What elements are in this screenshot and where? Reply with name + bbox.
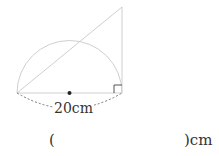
center-point [68, 91, 72, 95]
answer-close-paren-unit: )cm [184, 133, 212, 148]
right-angle-marker [114, 85, 122, 93]
answer-open-paren: ( [49, 133, 55, 148]
semicircle-arc [17, 41, 122, 94]
dimension-label: 20cm [53, 101, 94, 115]
hypotenuse [17, 7, 122, 93]
